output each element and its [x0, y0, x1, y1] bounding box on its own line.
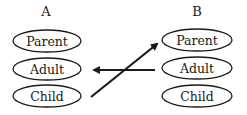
ego-state-a-adult: Adult: [13, 58, 81, 80]
label-b-parent: Parent: [176, 33, 218, 48]
label-a-adult: Adult: [29, 62, 64, 77]
column-b: B Parent Adult Child: [162, 4, 232, 107]
label-a-child: Child: [30, 89, 64, 104]
label-a-parent: Parent: [26, 34, 68, 49]
transaction-diagram: A Parent Adult Child B Parent Adult Chil…: [0, 0, 247, 115]
column-a-label: A: [40, 4, 51, 19]
ego-state-b-child: Child: [162, 85, 232, 107]
ego-state-a-parent: Parent: [13, 30, 81, 52]
label-b-adult: Adult: [179, 61, 214, 76]
column-b-label: B: [192, 4, 202, 19]
ego-state-b-parent: Parent: [162, 29, 232, 51]
label-b-child: Child: [180, 89, 214, 104]
column-a: A Parent Adult Child: [13, 4, 81, 107]
ego-state-b-adult: Adult: [162, 57, 232, 79]
ego-state-a-child: Child: [13, 85, 81, 107]
